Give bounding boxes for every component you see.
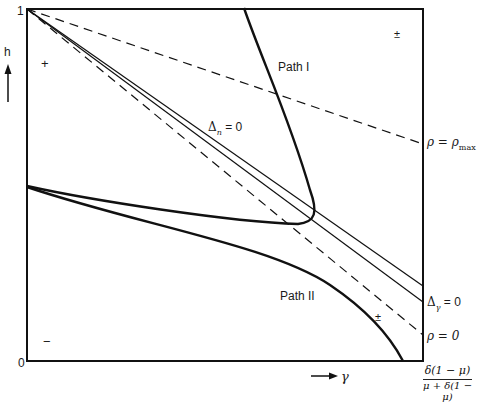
path-2-curve — [27, 187, 403, 361]
delta-n-label: Δn = 0 — [208, 121, 242, 137]
rho-zero-label: ρ = 0 — [427, 330, 459, 342]
origin-tick-label: 0 — [18, 357, 25, 369]
region-sign-lower-right: ± — [375, 312, 381, 323]
region-sign-upper-left: + — [41, 57, 49, 70]
x-axis-label: γ — [341, 370, 349, 383]
delta-gamma-suffix: = 0 — [440, 295, 460, 309]
rho-max-subscript: max — [459, 143, 476, 152]
rho-max-text: ρ = ρ — [427, 135, 459, 149]
rho-max-label: ρ = ρmax — [427, 136, 476, 152]
x-right-tick-denominator: μ + δ(1 − μ) — [417, 380, 478, 403]
x-right-tick-label: δ(1 − μ) μ + δ(1 − μ) — [423, 365, 472, 403]
region-sign-lower-left: − — [43, 335, 51, 348]
region-sign-upper-right: ± — [394, 29, 400, 40]
delta-gamma-curve — [27, 9, 423, 302]
path-1-label: Path I — [278, 61, 309, 73]
delta-n-curve — [27, 9, 423, 286]
delta-gamma-label: Δγ = 0 — [427, 296, 461, 312]
path-2-label: Path II — [280, 290, 315, 302]
delta-n-suffix: = 0 — [222, 120, 242, 134]
rho-zero-curve — [27, 9, 423, 335]
x-right-tick-numerator: δ(1 − μ) — [423, 365, 472, 380]
y-top-tick-label: 1 — [17, 5, 24, 17]
h-axis-arrow-icon — [5, 64, 12, 102]
plot-frame — [27, 9, 423, 361]
delta-n-symbol: Δ — [208, 120, 217, 134]
delta-gamma-symbol: Δ — [427, 295, 436, 309]
gamma-axis-arrow-icon — [311, 373, 338, 380]
y-axis-label: h — [4, 46, 11, 58]
